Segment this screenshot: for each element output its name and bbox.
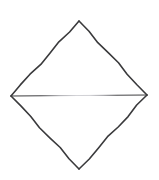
figure-canvas (0, 0, 159, 180)
rhombus-diagram (0, 0, 159, 180)
